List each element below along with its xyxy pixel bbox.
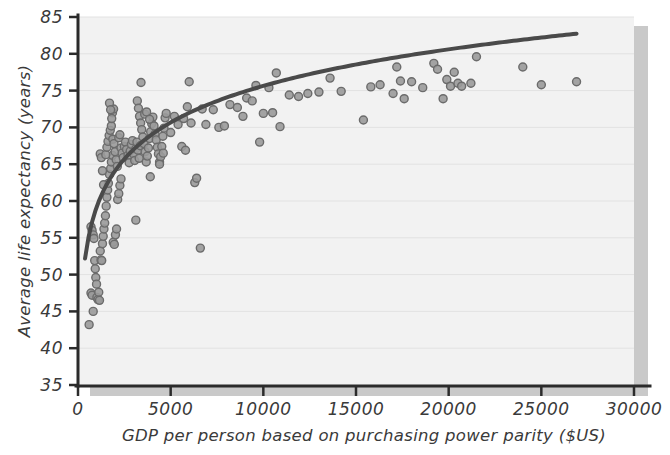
data-point [434, 65, 442, 73]
data-point [159, 132, 167, 140]
data-point [187, 119, 195, 127]
scatter-chart: 3540455055606570758085 05000100001500020… [0, 0, 670, 455]
data-point [467, 79, 475, 87]
y-axis-tick-labels: 3540455055606570758085 [40, 7, 63, 395]
data-point [95, 288, 103, 296]
data-point [183, 103, 191, 111]
data-point [137, 79, 145, 87]
data-point [116, 131, 124, 139]
data-point [573, 78, 581, 86]
data-point [156, 160, 164, 168]
data-point [110, 240, 118, 248]
data-point [202, 120, 210, 128]
plot-shadow-bottom [90, 387, 648, 396]
data-point [276, 123, 284, 131]
data-point [393, 63, 401, 71]
data-point [450, 68, 458, 76]
data-point [376, 81, 384, 89]
x-tick-label: 10000 [235, 399, 292, 419]
data-point [315, 88, 323, 96]
x-tick-label: 25000 [513, 399, 570, 419]
data-point [132, 216, 140, 224]
data-point [93, 280, 101, 288]
data-point [248, 97, 256, 105]
data-point [90, 235, 98, 243]
y-tick-label: 50 [40, 265, 63, 285]
y-tick-label: 75 [40, 81, 63, 101]
y-tick-label: 40 [40, 338, 63, 358]
data-point [162, 109, 170, 117]
chart-svg: 3540455055606570758085 05000100001500020… [0, 0, 670, 455]
x-tick-label: 20000 [420, 399, 477, 419]
y-tick-label: 70 [40, 117, 63, 137]
y-tick-label: 35 [40, 375, 63, 395]
data-point [439, 95, 447, 103]
x-axis-title: GDP per person based on purchasing power… [122, 426, 606, 445]
data-point [143, 152, 151, 160]
data-point [209, 106, 217, 114]
x-tick-label: 5000 [148, 399, 193, 419]
data-point [259, 109, 267, 117]
data-point [115, 190, 123, 198]
data-point [304, 90, 312, 98]
data-point [295, 92, 303, 100]
data-point [89, 307, 97, 315]
data-point [181, 146, 189, 154]
data-point [419, 84, 427, 92]
data-point [359, 116, 367, 124]
x-tick-label: 0 [72, 399, 83, 419]
data-point [519, 63, 527, 71]
data-point [193, 174, 201, 182]
data-point [367, 83, 375, 91]
y-tick-label: 65 [40, 154, 63, 174]
data-point [108, 115, 116, 123]
y-tick-label: 85 [40, 7, 63, 27]
data-point [167, 129, 175, 137]
data-point [144, 144, 152, 152]
data-point [91, 265, 99, 273]
data-point [458, 82, 466, 90]
data-point [285, 91, 293, 99]
data-point [337, 87, 345, 95]
data-point [196, 244, 204, 252]
x-tick-label: 30000 [606, 399, 663, 419]
data-point [98, 167, 106, 175]
data-point [95, 296, 103, 304]
data-point [326, 74, 334, 82]
data-point [101, 212, 109, 220]
data-point [408, 78, 416, 86]
data-point [272, 69, 280, 77]
data-point [537, 81, 545, 89]
y-tick-label: 80 [40, 44, 63, 64]
data-point [85, 321, 93, 329]
data-point [102, 202, 110, 210]
data-point [256, 138, 264, 146]
data-point [185, 78, 193, 86]
data-point [113, 225, 121, 233]
data-point [117, 175, 125, 183]
plot-shadow-right [634, 26, 648, 390]
data-point [396, 77, 404, 85]
data-point [220, 122, 228, 130]
data-point [239, 112, 247, 120]
data-point [389, 90, 397, 98]
y-tick-label: 60 [40, 191, 63, 211]
data-point [146, 173, 154, 181]
data-point [98, 257, 106, 265]
y-tick-label: 45 [40, 301, 63, 321]
data-point [472, 53, 480, 61]
data-point [233, 104, 241, 112]
data-point [159, 149, 167, 157]
y-axis-title: Average life expectancy (years) [15, 65, 34, 339]
y-tick-label: 55 [40, 228, 63, 248]
data-point [269, 109, 277, 117]
x-axis-tick-labels: 050001000015000200002500030000 [72, 399, 662, 419]
data-point [107, 106, 115, 114]
x-tick-label: 15000 [328, 399, 385, 419]
data-point [400, 95, 408, 103]
